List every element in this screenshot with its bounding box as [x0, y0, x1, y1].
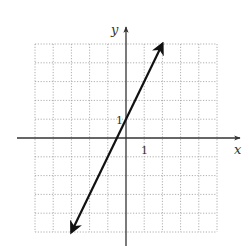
y-axis-label: y: [110, 22, 119, 37]
x-tick-label: 1: [141, 144, 148, 157]
y-tick-label: 1: [116, 114, 123, 127]
coordinate-plane: x y 1 1: [0, 0, 249, 246]
x-axis-label: x: [234, 142, 242, 157]
